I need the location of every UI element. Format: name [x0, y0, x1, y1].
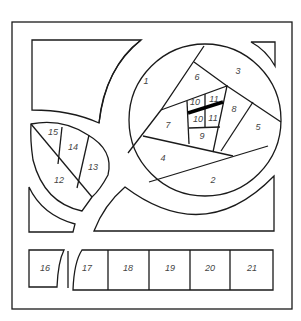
bottom-strip: [29, 250, 273, 290]
piece-labels: 1234567891011101112131415161718192021: [40, 66, 262, 273]
piece-label-20: 20: [204, 263, 215, 273]
pattern-diagram: 1234567891011101112131415161718192021: [0, 0, 301, 321]
piece-label-8: 8: [231, 104, 236, 114]
piece-label-14: 14: [68, 142, 78, 152]
piece-label-10a: 10: [190, 97, 200, 107]
piece-label-18: 18: [123, 263, 133, 273]
piece-label-13: 13: [88, 162, 98, 172]
piece-label-10b: 10: [193, 114, 203, 124]
bottom-right-panel: [94, 176, 274, 231]
piece-label-7: 7: [165, 120, 171, 130]
piece-label-5: 5: [255, 122, 261, 132]
ring-arc: [99, 40, 141, 123]
piece-label-6: 6: [194, 72, 199, 82]
piece-label-11a: 11: [209, 94, 218, 104]
piece-label-9: 9: [199, 131, 204, 141]
piece-label-2: 2: [209, 175, 215, 185]
piece-label-4: 4: [160, 153, 165, 163]
piece-label-12: 12: [54, 175, 64, 185]
piece-label-17: 17: [82, 263, 93, 273]
piece-label-15: 15: [48, 127, 59, 137]
piece-label-11b: 11: [208, 113, 217, 123]
piece-label-21: 21: [246, 263, 257, 273]
piece-label-3: 3: [235, 66, 240, 76]
piece-label-1: 1: [143, 76, 148, 86]
top-left-panel: [32, 40, 141, 123]
bottom-left-panel: [29, 187, 75, 232]
piece-label-16: 16: [40, 263, 50, 273]
piece-label-19: 19: [165, 263, 175, 273]
